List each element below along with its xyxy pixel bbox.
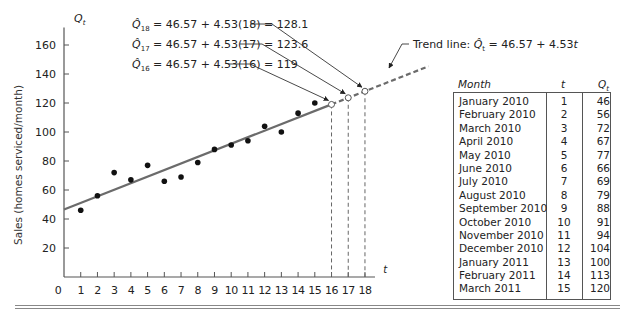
cell-month: February 2011: [459, 269, 536, 282]
chart-axes: QttSales (homes serviced/month): [12, 12, 388, 277]
data-point: [279, 129, 285, 135]
cell-month: August 2010: [459, 189, 526, 202]
table-row: March 2010372: [454, 122, 610, 135]
cell-q: 66: [582, 162, 610, 175]
x-tick-label: 18: [358, 284, 371, 297]
x-tick-label: 3: [111, 284, 118, 297]
bottom-rule: [15, 305, 620, 306]
x-tick-label: 4: [128, 284, 135, 297]
x-tick-label: 17: [342, 284, 355, 297]
data-point: [78, 208, 84, 214]
cell-q: 72: [582, 122, 610, 135]
cell-month: November 2010: [459, 229, 544, 242]
data-point: [145, 163, 151, 169]
cell-month: March 2010: [459, 122, 521, 135]
y-tick-label: 160: [35, 39, 56, 52]
x-tick-label: 15: [308, 284, 321, 297]
y-tick-label: 80: [42, 155, 56, 168]
cell-t: 1: [546, 95, 582, 108]
cell-q: 120: [582, 282, 610, 295]
trend-leader-arrow: [389, 44, 409, 68]
cell-month: May 2010: [459, 149, 511, 162]
data-point: [178, 174, 184, 180]
cell-q: 77: [582, 149, 610, 162]
forecast-points: [329, 88, 368, 107]
cell-month: October 2010: [459, 216, 531, 229]
cell-t: 15: [546, 282, 582, 295]
cell-month: February 2010: [459, 108, 536, 121]
cell-month: January 2011: [459, 256, 529, 269]
cell-t: 12: [546, 242, 582, 255]
y-tick-label: 60: [42, 184, 56, 197]
y-tick-label: 120: [35, 97, 56, 110]
table-row: May 2010577: [454, 149, 610, 162]
table-row: July 2010769: [454, 175, 610, 188]
data-point: [228, 142, 234, 148]
cell-q: 91: [582, 216, 610, 229]
table-row: March 201115120: [454, 282, 610, 295]
bottom-rule: [15, 308, 620, 309]
cell-t: 6: [546, 162, 582, 175]
header-month: Month: [458, 78, 491, 90]
cell-t: 13: [546, 256, 582, 269]
x-tick-label: 0: [55, 284, 62, 297]
table-row: January 2010146: [454, 95, 610, 108]
x-tick-label: 16: [325, 284, 338, 297]
x-tick-label: 7: [178, 284, 185, 297]
table-body: January 2010146February 2010256March 201…: [453, 92, 611, 300]
table-row: August 2010879: [454, 189, 610, 202]
data-point: [262, 123, 268, 129]
cell-q: 67: [582, 135, 610, 148]
x-tick-label: 9: [211, 284, 218, 297]
cell-month: December 2010: [459, 242, 544, 255]
cell-q: 104: [582, 242, 610, 255]
cell-month: September 2010: [459, 202, 547, 215]
table-row: October 20101091: [454, 216, 610, 229]
cell-t: 10: [546, 216, 582, 229]
cell-t: 2: [546, 108, 582, 121]
y-axis-symbol: Qt: [74, 12, 86, 27]
cell-q: 113: [582, 269, 610, 282]
cell-t: 9: [546, 202, 582, 215]
x-tick-label: 14: [292, 284, 305, 297]
trend-line-label: Trend line: Q̂t = 46.57 + 4.53t: [412, 38, 578, 53]
table-row: June 2010666: [454, 162, 610, 175]
cell-q: 69: [582, 175, 610, 188]
forecast-point: [329, 101, 335, 107]
axis-ticks: 2040608010012014016001234567891011121314…: [35, 39, 372, 297]
trend-line-solid: [64, 104, 332, 209]
data-point: [212, 147, 218, 153]
x-tick-label: 5: [144, 284, 151, 297]
forecast-point: [362, 88, 368, 94]
forecast-point: [345, 95, 351, 101]
cell-t: 3: [546, 122, 582, 135]
cell-t: 4: [546, 135, 582, 148]
table-row: January 201113100: [454, 256, 610, 269]
x-tick-label: 6: [161, 284, 168, 297]
cell-q: 100: [582, 256, 610, 269]
forecast-equation-16: Q̂16 = 46.57 + 4.53(16) = 119: [132, 58, 298, 73]
cell-t: 8: [546, 189, 582, 202]
cell-q: 88: [582, 202, 610, 215]
table-row: December 201012104: [454, 242, 610, 255]
leader-arrow: [250, 24, 362, 87]
x-tick-label: 13: [275, 284, 288, 297]
x-tick-label: 8: [195, 284, 202, 297]
x-tick-label: 12: [258, 284, 271, 297]
sales-data-table: Month t Qt January 2010146February 20102…: [453, 78, 611, 300]
header-q: Qt: [581, 78, 609, 93]
data-point: [128, 177, 134, 183]
y-tick-label: 20: [42, 242, 56, 255]
header-t: t: [545, 78, 581, 90]
data-point: [111, 170, 117, 176]
cell-month: January 2010: [459, 95, 529, 108]
data-point: [195, 160, 201, 166]
data-point: [312, 100, 318, 106]
x-tick-label: 11: [241, 284, 254, 297]
x-tick-label: 2: [94, 284, 101, 297]
cell-t: 14: [546, 269, 582, 282]
forecast-equation-17: Q̂17 = 46.57 + 4.53(17) = 123.6: [132, 38, 308, 53]
cell-month: July 2010: [459, 175, 508, 188]
data-point: [95, 193, 101, 199]
y-tick-label: 140: [35, 68, 56, 81]
